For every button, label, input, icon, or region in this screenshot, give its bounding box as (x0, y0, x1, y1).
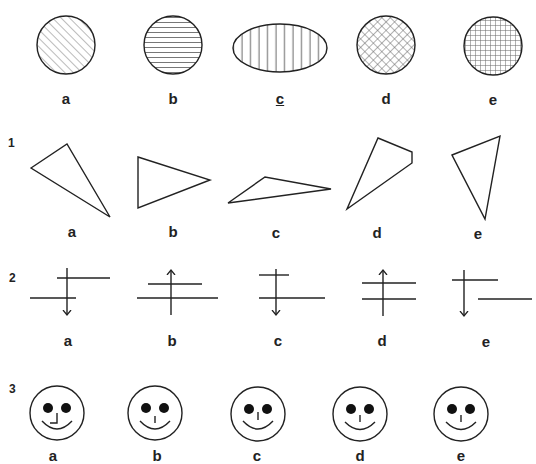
row-1-option-c-triangle (228, 177, 331, 203)
row-0-option-a-circle-diagonal-hatch (37, 16, 95, 74)
row-3-label-c: c (253, 448, 261, 463)
row-3-label-d: d (355, 448, 364, 463)
row-3-label-e: e (457, 448, 465, 463)
row-0-label-d: d (381, 91, 390, 106)
row-0-option-d-circle-crosshatch (357, 16, 415, 74)
row-3-option-e-face (434, 387, 488, 441)
row-1-number: 1 (8, 137, 15, 149)
row-1-label-d: d (372, 225, 381, 240)
row-1-option-d-quadrilateral (347, 138, 412, 209)
row-0-label-b: b (168, 91, 177, 106)
row-2-option-a-lines-arrow-down (30, 268, 110, 315)
row-1-option-e-triangle (452, 136, 500, 219)
row-2-option-c-lines-arrow-down (259, 269, 325, 315)
row-0-label-a: a (62, 91, 70, 106)
row-0-option-b-circle-horizontal-hatch (144, 16, 202, 74)
row-2-label-e: e (482, 334, 490, 349)
row-3-number: 3 (9, 383, 16, 395)
row-0-option-e-circle-grid (464, 17, 522, 75)
row-1-label-e: e (474, 226, 482, 241)
row-3-option-c-face (231, 387, 285, 441)
row-1-label-c: c (272, 225, 280, 240)
row-0-label-e: e (489, 92, 497, 107)
row-3-option-d-face (333, 387, 387, 441)
row-3-option-a-face-L-nose (30, 386, 84, 440)
row-0-label-c-underlined: c (276, 91, 284, 106)
row-2-option-e-lines-arrow-down (452, 270, 532, 316)
row-1-option-a-triangle (31, 144, 110, 217)
row-1-label-a: a (68, 224, 76, 239)
row-1-label-b: b (168, 224, 177, 239)
row-2-number: 2 (9, 272, 16, 284)
row-0-option-c-ellipse-vertical-hatch (233, 24, 327, 72)
row-2-label-d: d (377, 333, 386, 348)
row-2-label-c: c (274, 333, 282, 348)
row-3-label-b: b (152, 448, 161, 463)
row-1-option-b-triangle (138, 157, 210, 208)
row-2-label-b: b (167, 333, 176, 348)
row-2-option-b-lines-arrow-up (137, 270, 218, 315)
row-3-option-b-face (128, 386, 182, 440)
row-2-label-a: a (64, 333, 72, 348)
row-3-label-a: a (49, 448, 57, 463)
row-2-option-d-lines-arrow-up (362, 270, 416, 316)
